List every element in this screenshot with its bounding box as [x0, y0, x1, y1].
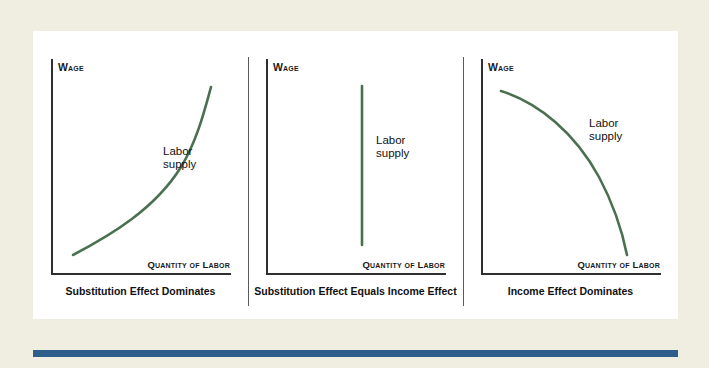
- panel-substitution-effect-dominates: Wage Quantity of Labor Labor supply Subs…: [33, 31, 248, 319]
- panel-substitution-equals-income: Wage Quantity of Labor Labor supply Subs…: [248, 31, 463, 319]
- panel-caption-0: Substitution Effect Dominates: [33, 285, 248, 297]
- curve-label-0: Labor supply: [163, 145, 196, 171]
- labor-supply-curve-1: [266, 59, 446, 275]
- curve-path-0: [73, 87, 211, 255]
- curve-label-1: Labor supply: [376, 134, 409, 160]
- panel-income-effect-dominates: Wage Quantity of Labor Labor supply Inco…: [463, 31, 678, 319]
- accent-bar: [33, 350, 678, 357]
- plot-area-0: Wage Quantity of Labor Labor supply: [51, 59, 231, 275]
- plot-area-2: Wage Quantity of Labor Labor supply: [481, 59, 661, 275]
- labor-supply-curve-0: [51, 59, 231, 275]
- figure-card: Wage Quantity of Labor Labor supply Subs…: [33, 31, 678, 319]
- panel-caption-1: Substitution Effect Equals Income Effect: [248, 285, 463, 297]
- labor-supply-figure: Wage Quantity of Labor Labor supply Subs…: [0, 0, 709, 368]
- panel-caption-2: Income Effect Dominates: [463, 285, 678, 297]
- plot-area-1: Wage Quantity of Labor Labor supply: [266, 59, 446, 275]
- labor-supply-curve-2: [481, 59, 661, 275]
- curve-label-2: Labor supply: [589, 117, 622, 143]
- curve-path-2: [501, 91, 627, 255]
